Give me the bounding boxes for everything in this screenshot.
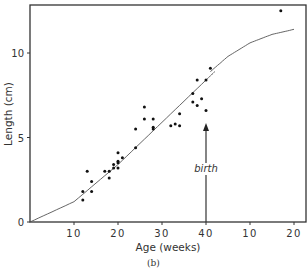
data-point (134, 128, 137, 131)
birth-arrow-head-icon (203, 123, 209, 131)
data-point (196, 104, 199, 107)
data-point (117, 166, 120, 169)
y-tick-label: 5 (18, 133, 24, 144)
data-point (103, 170, 106, 173)
fit-curve-postnatal-fit (210, 29, 294, 71)
y-axis-label: Length (cm) (2, 82, 14, 146)
y-tick-label: 0 (18, 217, 24, 228)
data-point (205, 109, 208, 112)
data-point (209, 67, 212, 70)
fit-curve-prenatal-fit (30, 72, 215, 222)
data-point (134, 146, 137, 149)
data-point (143, 106, 146, 109)
x-tick-label: 30 (154, 228, 170, 239)
data-point (117, 160, 120, 163)
birth-label: birth (194, 163, 218, 174)
data-point (169, 124, 172, 127)
data-point (200, 97, 203, 100)
data-point (117, 151, 120, 154)
x-tick-label: 20 (110, 228, 126, 239)
data-point (112, 163, 115, 166)
data-point (196, 79, 199, 82)
y-tick-label: 10 (11, 48, 24, 59)
data-point (205, 79, 208, 82)
data-point (121, 156, 124, 159)
data-point (191, 92, 194, 95)
data-point (279, 9, 282, 12)
data-point (191, 101, 194, 104)
data-point (143, 117, 146, 120)
data-point (108, 177, 111, 180)
data-point (90, 180, 93, 183)
data-point (178, 112, 181, 115)
x-tick-label: 20 (286, 228, 302, 239)
x-tick-label: 40 (198, 228, 214, 239)
data-point (112, 166, 115, 169)
data-point (108, 170, 111, 173)
data-point (178, 124, 181, 127)
data-point (81, 190, 84, 193)
x-axis-label: Age (weeks) (136, 241, 201, 253)
data-point (81, 199, 84, 202)
data-point (152, 128, 155, 131)
data-point (90, 190, 93, 193)
x-tick-label: 10 (242, 228, 258, 239)
figure-caption: (b) (0, 258, 307, 268)
x-tick-label: 10 (66, 228, 82, 239)
data-point (152, 117, 155, 120)
data-point (174, 122, 177, 125)
growth-chart: 0510102030401020Age (weeks)Length (cm)bi… (0, 0, 307, 277)
data-point (86, 170, 89, 173)
